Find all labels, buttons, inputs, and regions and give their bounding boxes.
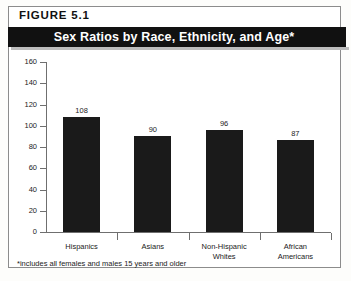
y-axis-tick-label-text: 160 <box>11 57 37 66</box>
y-axis-tick <box>40 168 47 169</box>
figure-root: FIGURE 5.1 Sex Ratios by Race, Ethnicity… <box>0 0 351 281</box>
x-axis-tick <box>117 233 118 240</box>
x-axis-tick <box>189 233 190 240</box>
bar <box>134 136 171 232</box>
y-axis-tick-label-text: 140 <box>11 78 37 87</box>
title-banner: Sex Ratios by Race, Ethnicity, and Age* <box>8 27 346 47</box>
y-axis-tick-label-text: 20 <box>11 206 37 215</box>
bar-value-label: 96 <box>204 119 244 128</box>
x-axis-tick <box>331 233 332 240</box>
bar-value-label: 87 <box>275 129 315 138</box>
y-axis-tick-label-text: 60 <box>11 163 37 172</box>
bar-value-label: 108 <box>62 106 102 115</box>
x-axis-category-label-line: African <box>260 242 331 252</box>
x-axis-category-label: Hispanics <box>46 242 117 252</box>
y-axis-tick-label-text: 120 <box>11 100 37 109</box>
x-axis-category-label-line: Non-Hispanic <box>189 242 260 252</box>
figure-title: Sex Ratios by Race, Ethnicity, and Age* <box>8 27 340 47</box>
x-axis-category-label: AfricanAmericans <box>260 242 331 261</box>
y-axis-tick-label: 140 <box>9 78 37 88</box>
y-axis-tick-label: 60 <box>9 163 37 173</box>
chart-plot-area: 020406080100120140160 108909687 Hispanic… <box>9 50 340 267</box>
y-axis-tick <box>40 126 47 127</box>
y-axis-tick <box>40 190 47 191</box>
y-axis-tick <box>40 83 47 84</box>
y-axis-tick-label-text: 100 <box>11 121 37 130</box>
y-axis-tick-label: 0 <box>9 227 37 237</box>
bar-value-label: 90 <box>133 125 173 134</box>
y-axis-tick-label: 80 <box>9 142 37 152</box>
figure-footnote: *includes all females and males 15 years… <box>17 259 186 268</box>
y-axis-tick-label-text: 80 <box>11 142 37 151</box>
y-axis-tick-label: 160 <box>9 57 37 67</box>
y-axis-tick <box>40 211 47 212</box>
bar <box>277 140 314 232</box>
bar <box>206 130 243 232</box>
x-axis-category-label-line: Asians <box>117 242 188 252</box>
y-axis-tick-label: 20 <box>9 206 37 216</box>
y-axis-tick <box>40 147 47 148</box>
bar <box>63 117 100 232</box>
y-axis-tick-label: 100 <box>9 121 37 131</box>
y-axis-tick <box>40 105 47 106</box>
x-axis-category-label: Non-HispanicWhites <box>189 242 260 261</box>
y-axis-tick-label-text: 40 <box>11 185 37 194</box>
x-axis-tick <box>260 233 261 240</box>
y-axis-tick-label: 40 <box>9 185 37 195</box>
x-axis-category-label-line: Hispanics <box>46 242 117 252</box>
figure-number-label: FIGURE 5.1 <box>19 9 90 21</box>
x-axis-category-label-line: Whites <box>189 252 260 262</box>
y-axis-tick <box>40 62 47 63</box>
x-axis-category-label: Asians <box>117 242 188 252</box>
x-axis-category-label-line: Americans <box>260 252 331 262</box>
y-axis-tick-label: 120 <box>9 100 37 110</box>
y-axis-tick-label-text: 0 <box>11 227 37 236</box>
y-axis-tick <box>40 232 47 233</box>
